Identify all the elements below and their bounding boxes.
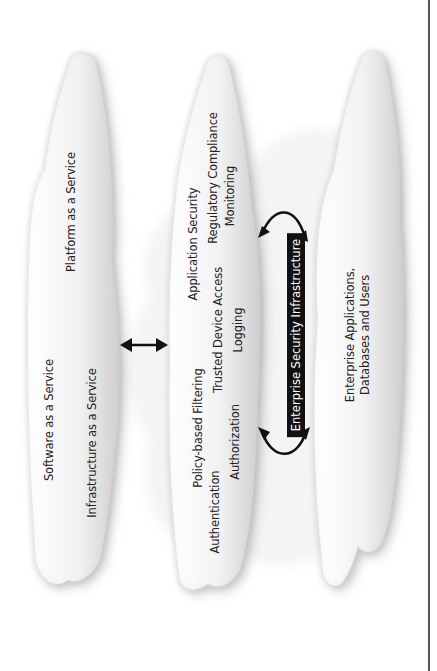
label-application-security: Application Security — [186, 187, 200, 300]
provider-cloud-shape — [28, 54, 124, 588]
label-enterprise-applications: Enterprise Applications, Databases and U… — [343, 240, 373, 430]
page-edge-line — [428, 0, 430, 671]
label-monitoring: Monitoring — [223, 166, 237, 227]
label-platform-as-a-service: Platform as a Service — [64, 152, 78, 272]
label-regulatory-compliance: Regulatory Compliance — [206, 112, 220, 244]
label-software-as-a-service: Software as a Service — [42, 359, 56, 481]
label-policy-based-filtering: Policy-based Filtering — [191, 368, 205, 487]
label-logging: Logging — [231, 308, 245, 353]
label-authorization: Authorization — [228, 404, 242, 480]
label-trusted-device-access: Trusted Device Access — [211, 267, 225, 393]
diagram-canvas: Software as a Service Platform as a Serv… — [0, 0, 437, 671]
enterprise-security-infrastructure-label: Enterprise Security Infrastructure — [287, 233, 305, 437]
label-infrastructure-as-a-service: Infrastructure as a Service — [85, 368, 99, 518]
label-authentication: Authentication — [208, 470, 222, 553]
